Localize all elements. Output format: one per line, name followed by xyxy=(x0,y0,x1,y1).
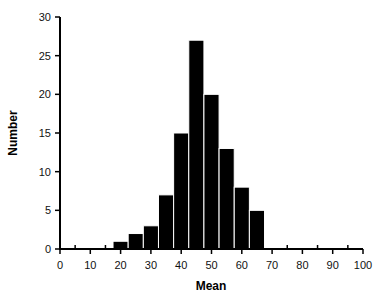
y-axis: 051015202530 xyxy=(39,11,60,255)
histogram-bar xyxy=(189,40,204,249)
y-tick-label: 10 xyxy=(39,166,51,178)
x-tick-label: 100 xyxy=(354,259,372,271)
histogram-chart: 051015202530 0102030405060708090100 Numb… xyxy=(0,0,383,307)
x-tick-label: 50 xyxy=(205,259,217,271)
y-tick-label: 15 xyxy=(39,127,51,139)
histogram-bar xyxy=(174,133,189,249)
bars-group xyxy=(113,40,265,249)
x-tick-label: 30 xyxy=(145,259,157,271)
x-tick-label: 0 xyxy=(57,259,63,271)
histogram-bar xyxy=(158,195,173,249)
y-tick-label: 25 xyxy=(39,50,51,62)
histogram-bar xyxy=(113,241,128,249)
x-tick-label: 10 xyxy=(84,259,96,271)
x-tick-label: 90 xyxy=(327,259,339,271)
x-axis: 0102030405060708090100 xyxy=(57,245,372,271)
x-tick-label: 60 xyxy=(236,259,248,271)
histogram-bar xyxy=(143,226,158,249)
histogram-bar xyxy=(219,148,234,249)
x-tick-label: 80 xyxy=(296,259,308,271)
y-tick-label: 5 xyxy=(45,204,51,216)
y-tick-label: 30 xyxy=(39,11,51,23)
y-axis-title: Number xyxy=(6,110,20,156)
histogram-bar xyxy=(249,210,264,249)
y-tick-label: 20 xyxy=(39,88,51,100)
y-tick-label: 0 xyxy=(45,243,51,255)
x-tick-label: 40 xyxy=(175,259,187,271)
histogram-bar xyxy=(204,94,219,249)
x-axis-title: Mean xyxy=(196,279,227,293)
histogram-bar xyxy=(234,187,249,249)
x-tick-label: 70 xyxy=(266,259,278,271)
x-tick-label: 20 xyxy=(114,259,126,271)
